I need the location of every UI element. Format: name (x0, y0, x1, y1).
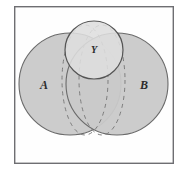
set-label-b: B (139, 78, 148, 92)
diagram-canvas: A B Y (0, 0, 187, 178)
venn-diagram-figure: A B Y (0, 0, 187, 178)
set-label-a: A (39, 78, 48, 92)
set-label-y: Y (91, 44, 98, 55)
